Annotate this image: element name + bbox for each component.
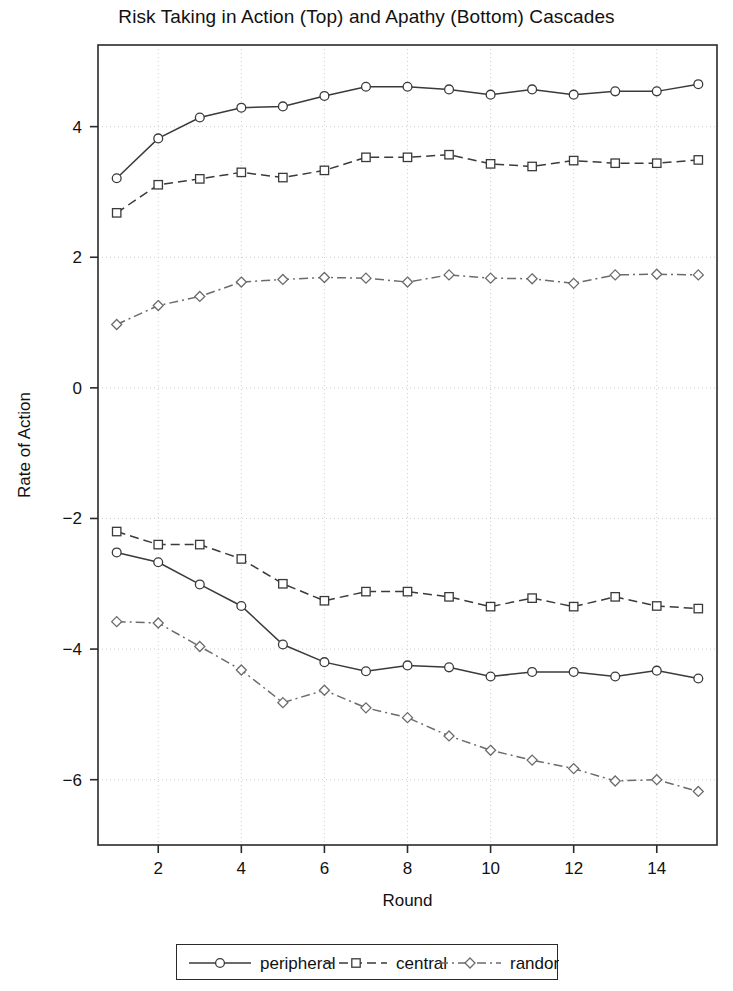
data-point-marker [569,156,577,164]
data-point-marker [486,273,496,283]
data-point-marker [528,668,537,677]
data-point-marker [237,168,245,176]
data-point-marker [569,602,577,610]
x-tick-label: 10 [481,859,500,878]
data-point-marker [279,173,287,181]
legend-item-random[interactable]: random [439,954,559,973]
data-point-marker [320,597,328,605]
data-point-marker [486,745,496,755]
series-action-top-random [112,269,704,329]
series-apathy-bottom-central [112,527,702,612]
data-point-marker [527,755,537,765]
data-point-marker [195,641,205,651]
legend-label: random [510,954,559,973]
legend-item-central[interactable]: central [325,954,447,973]
data-point-marker [154,134,163,143]
data-point-marker [352,959,360,967]
axis-ticks-group [90,127,657,853]
data-point-marker [403,82,412,91]
plot-area: 2468101214420−2−4−6 RoundRate of Action [0,0,733,991]
data-point-marker [693,270,703,280]
legend: peripheralcentralrandom [176,944,558,980]
data-point-marker [569,668,578,677]
data-point-marker [694,80,703,89]
data-point-marker [403,661,412,670]
data-point-marker [112,617,122,627]
data-point-marker [652,269,662,279]
x-tick-label: 12 [564,859,583,878]
data-point-marker [569,90,578,99]
gridlines-group [98,45,717,845]
data-point-marker [278,640,287,649]
data-point-marker [610,270,620,280]
data-point-marker [486,160,494,168]
data-point-marker [196,175,204,183]
data-point-marker [403,713,413,723]
data-point-marker [237,555,245,563]
x-tick-label: 2 [154,859,163,878]
data-point-marker [112,209,120,217]
data-point-marker [611,87,620,96]
data-point-marker [195,291,205,301]
series-action-top-central [112,151,702,218]
data-point-marker [528,85,537,94]
data-point-marker [237,103,246,112]
data-point-marker [611,593,619,601]
data-point-marker [112,548,121,557]
data-point-marker [154,540,162,548]
legend-label: peripheral [260,954,336,973]
data-point-marker [528,594,536,602]
data-point-marker [610,776,620,786]
data-point-marker [237,602,246,611]
data-point-marker [611,672,620,681]
data-point-marker [319,685,329,695]
data-point-marker [112,320,122,330]
data-point-marker [153,618,163,628]
data-point-marker [693,786,703,796]
data-point-marker [153,301,163,311]
x-axis-title: Round [382,891,432,910]
data-point-marker [278,274,288,284]
data-point-marker [112,174,121,183]
data-point-marker [611,159,619,167]
data-point-marker [361,703,371,713]
x-tick-label: 6 [320,859,329,878]
data-point-marker [236,277,246,287]
data-point-marker [528,162,536,170]
data-point-marker [652,87,661,96]
data-point-marker [320,166,328,174]
data-point-marker [362,587,370,595]
data-point-marker [694,604,702,612]
data-point-marker [465,958,475,968]
legend-content: peripheralcentralrandom [177,945,559,981]
data-point-marker [652,775,662,785]
data-point-marker [112,527,120,535]
series-line [117,552,699,678]
data-point-marker [320,92,329,101]
data-point-marker [486,672,495,681]
data-point-marker [196,540,204,548]
data-point-marker [362,153,370,161]
data-point-marker [195,113,204,122]
y-tick-label: −4 [63,640,82,659]
data-point-marker [362,667,371,676]
data-point-marker [361,273,371,283]
data-point-marker [694,156,702,164]
data-point-marker [154,558,163,567]
data-point-marker [652,666,661,675]
data-series-group [112,80,704,797]
legend-item-peripheral[interactable]: peripheral [189,954,336,973]
data-point-marker [486,602,494,610]
y-axis-title: Rate of Action [15,392,34,498]
x-tick-label: 4 [237,859,246,878]
data-point-marker [444,731,454,741]
y-tick-label: 4 [73,118,82,137]
data-point-marker [486,90,495,99]
series-apathy-bottom-peripheral [112,548,702,683]
data-point-marker [445,151,453,159]
data-point-marker [445,593,453,601]
y-tick-label: 0 [73,379,82,398]
data-point-marker [362,82,371,91]
data-point-marker [445,663,454,672]
y-tick-label: 2 [73,248,82,267]
